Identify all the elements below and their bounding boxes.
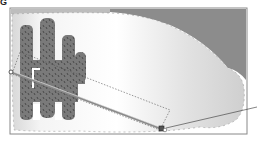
gradient-start-handle[interactable]	[9, 70, 13, 74]
gradient-end-ring	[163, 128, 167, 132]
canvas	[0, 0, 257, 144]
